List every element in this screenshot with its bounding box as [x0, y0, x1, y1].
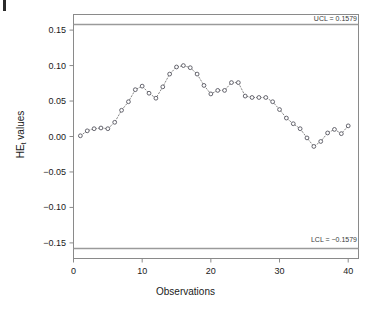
data-point [278, 108, 282, 112]
data-point [106, 127, 110, 131]
data-point [195, 72, 199, 76]
data-point [99, 126, 103, 130]
y-tick-label: 0.05 [22, 96, 66, 106]
chart-figure: UCL = 0.1579 LCL = −0.1579 HEt values Ob… [0, 0, 371, 311]
y-tick-label: 0.15 [22, 25, 66, 35]
x-tick-label: 0 [54, 266, 94, 276]
x-tick-label: 20 [191, 266, 231, 276]
axis-tick-marks [70, 30, 349, 262]
x-tick-label: 10 [122, 266, 162, 276]
x-axis-title: Observations [0, 286, 371, 297]
data-point [257, 96, 261, 100]
control-chart-plot [0, 0, 371, 311]
data-point [312, 145, 316, 149]
lcl-label: LCL = −0.1579 [311, 236, 357, 243]
data-point [78, 134, 82, 138]
data-point [291, 122, 295, 126]
data-point [161, 85, 165, 89]
ucl-label: UCL = 0.1579 [314, 15, 357, 22]
x-tick-label: 30 [260, 266, 300, 276]
data-point [85, 129, 89, 133]
data-point [319, 140, 323, 144]
data-point [223, 89, 227, 93]
y-axis-title-main: HE [15, 144, 26, 158]
y-axis-title-subscript: t [20, 142, 27, 144]
series-data-points [78, 64, 350, 149]
plot-border [74, 15, 359, 259]
data-point [236, 81, 240, 85]
data-point [243, 94, 247, 98]
data-point [147, 91, 151, 95]
control-limit-lines [74, 25, 359, 249]
plot-frame [74, 15, 359, 259]
data-point [250, 96, 254, 100]
data-point [133, 88, 137, 92]
data-point [120, 108, 124, 112]
data-point [127, 100, 131, 104]
data-point [202, 84, 206, 88]
data-point [154, 96, 158, 100]
y-tick-label: 0.00 [22, 132, 66, 142]
data-point [333, 128, 337, 132]
data-point [264, 96, 268, 100]
data-point [346, 124, 350, 128]
data-point [175, 65, 179, 69]
data-point [113, 120, 117, 124]
data-point [140, 84, 144, 88]
data-point [339, 132, 343, 136]
data-point [326, 131, 330, 135]
data-point [305, 136, 309, 140]
data-point [209, 92, 213, 96]
data-point [271, 100, 275, 104]
data-point [298, 127, 302, 131]
y-tick-label: −0.05 [22, 167, 66, 177]
data-point [168, 72, 172, 76]
data-point [92, 127, 96, 131]
data-point [230, 81, 234, 85]
series-connector-line [80, 66, 348, 147]
data-point [181, 64, 185, 68]
y-tick-label: −0.10 [22, 202, 66, 212]
data-point [188, 66, 192, 70]
y-tick-label: 0.10 [22, 61, 66, 71]
data-point [284, 116, 288, 120]
series-path [80, 66, 348, 147]
x-tick-label: 40 [328, 266, 368, 276]
data-point [216, 89, 220, 93]
y-tick-label: −0.15 [22, 238, 66, 248]
